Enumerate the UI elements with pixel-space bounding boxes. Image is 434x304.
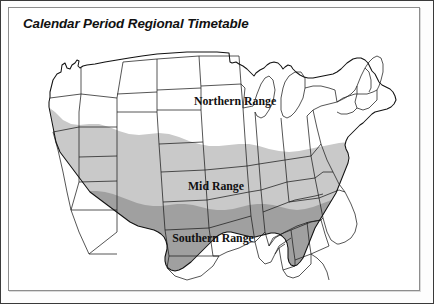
zone-label-mid: Mid Range bbox=[188, 179, 244, 193]
poster-inner-panel: Calendar Period Regional Timetable bbox=[8, 7, 420, 291]
us-regional-range-map: Northern Range Mid Range Southern Range bbox=[17, 32, 427, 282]
page-title: Calendar Period Regional Timetable bbox=[23, 16, 249, 31]
zone-label-northern: Northern Range bbox=[194, 94, 276, 108]
poster-outer-frame: Calendar Period Regional Timetable bbox=[0, 0, 434, 304]
map-container: Northern Range Mid Range Southern Range bbox=[17, 32, 427, 298]
zone-label-southern: Southern Range bbox=[172, 231, 254, 245]
